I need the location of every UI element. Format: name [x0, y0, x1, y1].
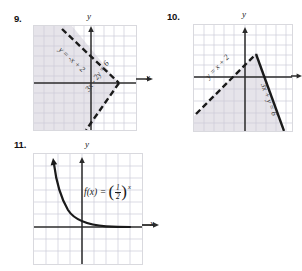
problem-9: 9.	[0, 0, 160, 136]
problem-11-fraction: 1 2	[114, 184, 121, 201]
problem-9-number: 9.	[14, 13, 22, 24]
problem-9-x-axis-arrow	[136, 74, 154, 84]
problem-10-y-axis-label: y	[242, 9, 246, 19]
problem-11-svg	[34, 154, 142, 264]
problem-9-svg	[34, 26, 136, 130]
problem-9-x-axis-label: x	[146, 72, 150, 82]
fraction-numerator: 1	[116, 184, 120, 192]
problem-10: 10.	[155, 0, 302, 136]
fraction-denominator: 2	[116, 193, 120, 201]
problem-9-y-axis-label: y	[87, 11, 91, 21]
problem-11: 11.	[0, 134, 180, 271]
problem-11-fraction-group: ( 1 2 )	[109, 184, 127, 201]
problem-11-fx: f(x)	[84, 187, 97, 197]
problem-11-y-axis-label: y	[85, 139, 89, 149]
problem-11-equals: =	[100, 187, 106, 197]
worksheet-page: 9.	[0, 0, 302, 271]
problem-9-graph	[33, 25, 137, 131]
problem-11-x-axis-label: x	[150, 218, 154, 228]
problem-11-axes	[34, 157, 142, 264]
problem-11-grid	[34, 154, 142, 264]
problem-11-exponent: x	[128, 183, 131, 190]
problem-11-function-label: f(x) = ( 1 2 ) x	[84, 184, 131, 201]
problem-10-x-axis-arrow	[291, 71, 302, 81]
problem-10-number: 10.	[167, 11, 180, 22]
problem-11-curve-arrow	[51, 158, 58, 166]
paren-close: )	[121, 185, 127, 199]
problem-11-graph	[33, 153, 143, 265]
problem-11-number: 11.	[14, 139, 26, 150]
